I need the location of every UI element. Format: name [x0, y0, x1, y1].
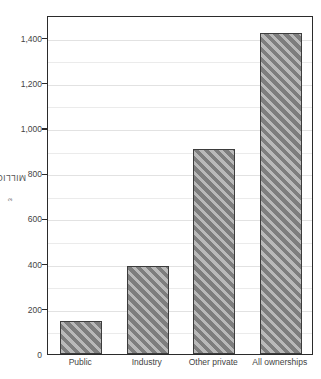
y-tick-label: 800 — [8, 169, 42, 179]
x-tick-label: Public — [47, 357, 114, 367]
y-tick-label: 1,400 — [8, 34, 42, 44]
bar[interactable] — [60, 321, 102, 354]
x-tick-label: Industry — [114, 357, 181, 367]
y-tick-label: 0 — [8, 350, 42, 360]
plot-area — [47, 16, 313, 355]
bar-slot — [48, 16, 115, 354]
bar-slot — [248, 16, 314, 354]
bars-group — [48, 17, 312, 354]
y-axis-labels: 02004006008001,0001,2001,400 — [0, 0, 42, 379]
y-tick-label: 400 — [8, 260, 42, 270]
y-tick-label: 200 — [8, 305, 42, 315]
bar-slot — [115, 16, 182, 354]
bar[interactable] — [127, 266, 169, 354]
y-tick-label: 600 — [8, 214, 42, 224]
y-tick-label: 1,200 — [8, 79, 42, 89]
bar[interactable] — [260, 33, 302, 354]
y-tick-label: 1,000 — [8, 124, 42, 134]
x-tick-label: All ownerships — [247, 357, 314, 367]
bar-slot — [181, 16, 248, 354]
x-tick-label: Other private — [180, 357, 247, 367]
bar-chart: MILLION m3 02004006008001,0001,2001,400 … — [0, 0, 321, 379]
x-axis-labels: PublicIndustryOther privateAll ownership… — [47, 357, 313, 377]
bar[interactable] — [193, 149, 235, 354]
